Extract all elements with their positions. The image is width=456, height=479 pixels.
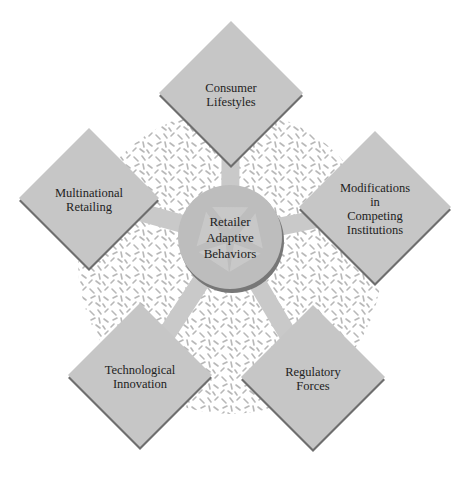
factor-label-consumer-lifestyles: Consumer Lifestyles — [205, 81, 256, 109]
factor-label-modifications-competing-institutions: Modifications in Competing Institutions — [340, 181, 410, 237]
center-label: Retailer Adaptive Behaviors — [204, 214, 257, 262]
factor-label-technological-innovation: Technological Innovation — [105, 363, 176, 391]
factor-label-multinational-retailing: Multinational Retailing — [55, 186, 123, 214]
factor-label-regulatory-forces: Regulatory Forces — [285, 365, 341, 393]
retail-adaptation-diagram: Retailer Adaptive Behaviors Consumer Lif… — [0, 0, 456, 479]
